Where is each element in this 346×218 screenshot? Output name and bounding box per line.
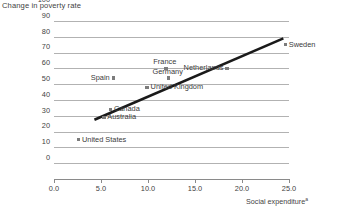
y-axis-tick-label: 0	[26, 154, 50, 161]
x-axis-tick-mark	[195, 179, 196, 183]
data-point-label: United Kingdom	[151, 83, 204, 90]
y-axis-tick-label: 40	[26, 91, 50, 98]
y-axis-tick-label: 20	[26, 122, 50, 129]
data-point-marker[interactable]	[145, 86, 148, 89]
data-point-label: Germany	[152, 68, 182, 75]
x-axis-tick-mark	[289, 179, 290, 183]
data-point-marker[interactable]	[284, 43, 287, 46]
data-point-marker[interactable]	[109, 108, 112, 111]
data-point-label: Australia	[107, 113, 136, 120]
y-axis-tick-label: 100	[26, 0, 50, 3]
data-point-marker[interactable]	[167, 76, 170, 79]
x-axis-tick-label: 15.0	[178, 185, 212, 192]
x-axis-tick-label: 20.0	[225, 185, 259, 192]
x-axis-title: Social expenditurea	[246, 196, 308, 206]
data-point-marker[interactable]	[112, 76, 115, 79]
x-axis-line	[54, 179, 289, 180]
data-points: United StatesAustraliaCanadaSpainUnited …	[54, 21, 289, 179]
x-axis-tick-mark	[101, 179, 102, 183]
x-axis-tick-label: 5.0	[84, 185, 118, 192]
x-axis-title-text: Social expenditure	[246, 197, 305, 206]
data-point-label: France	[153, 58, 176, 65]
y-axis-tick-label: 30	[26, 107, 50, 114]
y-axis-ticks: 1009080706050403020100	[22, 0, 50, 158]
y-axis-tick-label: 10	[26, 138, 50, 145]
x-axis-tick-label: 10.0	[131, 185, 165, 192]
y-axis-tick-label: 80	[26, 28, 50, 35]
x-axis-tick-mark	[54, 179, 55, 183]
x-axis-tick-mark	[242, 179, 243, 183]
data-point-marker[interactable]	[77, 138, 80, 141]
data-point-label: United States	[82, 136, 126, 143]
data-point-label: Netherlands	[184, 64, 224, 71]
data-point-marker[interactable]	[102, 116, 105, 119]
data-point-label: Spain	[91, 74, 110, 81]
x-axis-tick-label: 25.0	[272, 185, 306, 192]
x-axis-footnote-marker: a	[305, 196, 308, 202]
y-axis-tick-label: 60	[26, 59, 50, 66]
x-axis-tick-label: 0.0	[37, 185, 71, 192]
y-axis-tick-label: 70	[26, 43, 50, 50]
y-axis-tick-label: 50	[26, 75, 50, 82]
data-point-marker[interactable]	[225, 67, 228, 70]
data-point-label: Canada	[114, 105, 140, 112]
x-axis-tick-mark	[148, 179, 149, 183]
data-point-label: Sweden	[289, 41, 316, 48]
y-axis-tick-label: 90	[26, 12, 50, 19]
scatter-chart: Change in poverty rate Social expenditur…	[0, 0, 346, 218]
